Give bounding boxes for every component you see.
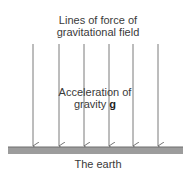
earth-label: The earth [0,158,196,170]
title-line-1: Lines of force of [0,14,196,26]
acceleration-line-2: gravity g [58,98,132,110]
acceleration-label: Acceleration of gravity g [58,86,132,110]
title-line-2: gravitational field [0,26,196,38]
field-lines-label: Lines of force of gravitational field [0,14,196,38]
gravity-word: gravity [74,98,109,110]
gravity-symbol: g [109,98,116,110]
earth-surface [8,147,183,154]
gravity-field-diagram: Lines of force of gravitational field Ac… [0,0,196,177]
acceleration-line-1: Acceleration of [58,86,132,98]
